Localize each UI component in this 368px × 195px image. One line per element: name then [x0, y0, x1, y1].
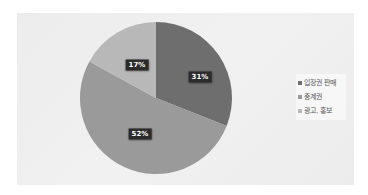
- data-label: 52%: [129, 129, 152, 140]
- legend-label: 입장권 판매: [304, 79, 336, 88]
- legend-item-broadcast-rights: 중계권: [298, 91, 346, 103]
- legend-item-advertising: 광고, 홍보: [298, 105, 346, 117]
- data-label: 17%: [126, 60, 149, 71]
- legend-item-ticket-sales: 입장권 판매: [298, 77, 346, 89]
- pie-slices: [80, 22, 232, 174]
- legend-label: 중계권: [304, 93, 322, 102]
- legend-marker-square-icon: [298, 109, 302, 113]
- legend-marker-square-icon: [298, 95, 302, 99]
- legend-label: 광고, 홍보: [304, 107, 332, 116]
- chart-legend: 입장권 판매 중계권 광고, 홍보: [296, 74, 346, 120]
- legend-marker-square-icon: [298, 81, 302, 85]
- data-label: 31%: [189, 72, 212, 83]
